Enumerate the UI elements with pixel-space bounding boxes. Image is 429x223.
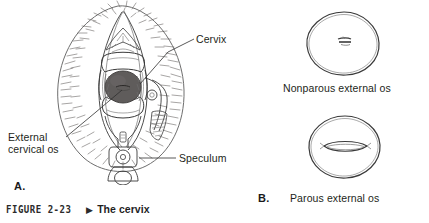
callout-label-speculum: Speculum xyxy=(179,152,227,164)
callout-label-cervix: Cervix xyxy=(196,33,226,45)
panel-letter-b: B. xyxy=(258,192,269,204)
label-nonparous-external-os: Nonparous external os xyxy=(283,82,391,94)
caption-triangle-icon: ▶ xyxy=(86,206,93,215)
callout-label-external-cervical-os-line1: External xyxy=(8,131,47,143)
speculum-lateral-arm xyxy=(145,78,167,140)
panel-letter-a: A. xyxy=(14,180,25,192)
label-parous-external-os: Parous external os xyxy=(290,192,379,204)
figure-the-cervix: Cervix External cervical os Speculum A. … xyxy=(0,0,429,223)
nonparous-os-drawing xyxy=(296,8,392,82)
parous-os-drawing xyxy=(300,112,392,184)
figure-caption: FIGURE 2-23 ▶ The cervix xyxy=(6,203,150,215)
figure-caption-title: The cervix xyxy=(97,203,149,215)
parous-os-opening xyxy=(320,142,371,152)
nonparous-os-opening xyxy=(338,37,351,46)
callout-label-external-cervical-os-line2: cervical os xyxy=(8,143,59,155)
cervix-disc xyxy=(105,71,141,103)
figure-caption-number: FIGURE 2-23 xyxy=(6,203,71,215)
